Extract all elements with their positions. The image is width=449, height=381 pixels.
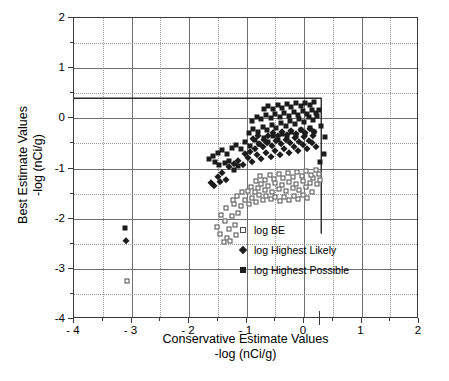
gridline-vertical — [160, 18, 162, 317]
x-axis-tick — [246, 318, 247, 323]
data-point — [274, 126, 279, 131]
data-point — [253, 178, 258, 183]
x-axis-title-line1: Conservative Estimate Values — [73, 332, 418, 347]
y-axis-tick — [68, 218, 73, 219]
y-axis-tick — [68, 67, 73, 68]
data-point — [247, 144, 252, 149]
data-point — [227, 226, 232, 231]
data-point — [285, 170, 290, 175]
scatter-plot-figure: Best Estimate Values -log (nCi/g) - 4- 3… — [0, 0, 449, 381]
data-point — [262, 177, 267, 182]
filled-square-icon — [232, 267, 254, 273]
data-point — [222, 219, 227, 224]
legend-item-log-highest-likely: log Highest Likely — [232, 240, 382, 260]
x-axis-tick — [131, 318, 132, 323]
axis-annotation-tick — [319, 311, 320, 325]
data-point — [305, 195, 310, 200]
y-axis-tick-label: 1 — [59, 61, 65, 73]
data-point — [223, 205, 228, 210]
y-axis-title-line2: -log (nCi/g) — [31, 106, 46, 224]
x-axis-tick — [102, 318, 103, 321]
data-point — [222, 161, 227, 166]
y-axis-tick — [68, 168, 73, 169]
x-axis-tick — [188, 318, 189, 323]
y-axis-tick-label: -3 — [55, 262, 65, 274]
data-point — [308, 172, 313, 177]
gridline-horizontal — [74, 118, 417, 119]
diamond-icon — [232, 247, 254, 253]
data-point — [258, 156, 266, 164]
y-axis-tick — [68, 318, 73, 319]
y-axis-tick-label: 2 — [59, 11, 65, 23]
legend-label: log Highest Possible — [254, 264, 349, 276]
x-axis-tick — [159, 318, 160, 321]
y-axis-tick — [68, 17, 73, 18]
y-axis-tick — [68, 268, 73, 269]
x-axis-title-line2: -log (nCi/g) — [73, 347, 418, 362]
data-point — [290, 174, 295, 179]
data-point — [307, 180, 312, 185]
data-point — [292, 122, 297, 127]
gridline-vertical — [103, 18, 105, 317]
data-point — [229, 214, 234, 219]
data-point — [219, 212, 224, 217]
data-point — [313, 167, 318, 172]
x-axis-tick — [361, 318, 362, 323]
data-point — [265, 128, 270, 133]
y-axis-title-line1: Best Estimate Values — [16, 106, 31, 224]
x-axis-tick — [274, 318, 275, 321]
data-point — [312, 100, 317, 105]
data-point — [310, 189, 315, 194]
data-point — [276, 171, 281, 176]
data-point — [248, 159, 256, 167]
x-axis-tick — [332, 318, 333, 321]
data-point — [293, 181, 298, 186]
data-point — [257, 142, 262, 147]
x-axis-tick — [418, 318, 419, 323]
legend-item-log-highest-possible: log Highest Possible — [232, 260, 382, 280]
x-axis-tick — [303, 318, 304, 323]
data-point — [322, 135, 327, 140]
y-axis-tick-label: -2 — [55, 212, 65, 224]
data-point — [238, 147, 243, 152]
data-point — [122, 225, 127, 230]
y-axis-tick — [70, 243, 73, 244]
open-square-icon — [232, 227, 254, 233]
x-axis-tick — [217, 318, 218, 321]
data-point — [236, 164, 241, 169]
data-point — [283, 124, 288, 129]
y-axis-tick — [70, 193, 73, 194]
gridline-vertical — [189, 18, 190, 317]
data-point — [272, 176, 277, 181]
data-point — [214, 225, 219, 230]
x-axis-tick — [73, 318, 74, 323]
legend-label: log BE — [254, 224, 285, 236]
y-axis-title: Best Estimate Values -log (nCi/g) — [0, 0, 62, 330]
y-axis-tick — [70, 142, 73, 143]
data-point — [124, 279, 129, 284]
legend-item-log-be: log BE — [232, 220, 382, 240]
data-point — [285, 150, 293, 158]
data-point — [266, 183, 271, 188]
gridline-horizontal — [74, 93, 417, 95]
data-point — [275, 138, 280, 143]
data-point — [227, 159, 232, 164]
data-point — [312, 144, 320, 152]
data-point — [304, 168, 309, 173]
data-point — [238, 203, 243, 208]
data-point — [321, 152, 326, 157]
data-point — [246, 201, 251, 206]
data-point — [299, 173, 304, 178]
y-axis-tick-label: -4 — [55, 312, 65, 324]
gridline-horizontal — [74, 194, 417, 196]
data-point — [267, 154, 275, 162]
gridline-horizontal — [74, 169, 417, 170]
gridline-vertical — [132, 18, 133, 317]
y-axis-tick — [68, 117, 73, 118]
data-point — [302, 120, 307, 125]
data-point — [318, 160, 323, 165]
data-point — [218, 231, 223, 236]
data-point — [316, 108, 321, 113]
y-axis-tick — [70, 293, 73, 294]
gridline-horizontal — [74, 43, 417, 45]
